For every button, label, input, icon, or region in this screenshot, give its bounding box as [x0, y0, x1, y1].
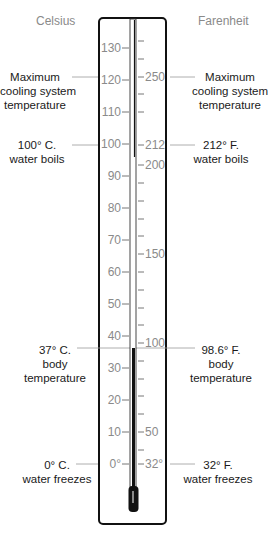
annotation-line: temperature	[0, 98, 70, 112]
celsius-body-annotation: 37° C. body temperature	[22, 343, 88, 385]
celsius-tick-label: 40	[108, 329, 121, 343]
annotation-line: 0° C.	[20, 458, 94, 472]
celsius-boils-annotation: 100° C. water boils	[4, 138, 70, 166]
fahrenheit-tick-label: 250	[145, 70, 165, 84]
annotation-line: water boils	[186, 152, 256, 166]
annotation-line: 212° F.	[186, 138, 256, 152]
annotation-line: body	[22, 357, 88, 371]
fahrenheit-tick-label: 150	[145, 247, 165, 261]
annotation-line: water boils	[4, 152, 70, 166]
celsius-tick-label: 120	[101, 73, 121, 87]
fahrenheit-tick-label: 50	[145, 425, 158, 439]
fahrenheit-tick-label: 212	[145, 138, 165, 152]
celsius-tick-label: 10	[108, 425, 121, 439]
celsius-tick-label: 130	[101, 41, 121, 55]
celsius-tick-label: 70	[108, 233, 121, 247]
fahrenheit-body-annotation: 98.6° F. body temperature	[186, 343, 256, 385]
annotation-line: temperature	[22, 371, 88, 385]
fahrenheit-tick-label: 100	[145, 336, 165, 350]
annotation-line: water freezes	[20, 472, 94, 486]
annotation-line: temperature	[192, 98, 268, 112]
annotation-line: 37° C.	[22, 343, 88, 357]
annotation-line: Maximum	[0, 70, 70, 84]
annotation-line: temperature	[186, 371, 256, 385]
celsius-tick-label: 110	[102, 105, 121, 119]
fahrenheit-tick-label: 200	[145, 158, 165, 172]
annotation-line: 98.6° F.	[186, 343, 256, 357]
annotation-line: 100° C.	[4, 138, 70, 152]
fahrenheit-tick-label: 32°	[145, 457, 163, 471]
annotation-line: body	[186, 357, 256, 371]
celsius-freezes-annotation: 0° C. water freezes	[20, 458, 94, 486]
annotation-line: cooling system	[192, 84, 268, 98]
celsius-max-cooling-annotation: Maximum cooling system temperature	[0, 70, 70, 112]
celsius-tick-label: 20	[108, 393, 121, 407]
fahrenheit-boils-annotation: 212° F. water boils	[186, 138, 256, 166]
fahrenheit-max-cooling-annotation: Maximum cooling system temperature	[192, 70, 268, 112]
celsius-tick-label: 90	[108, 169, 121, 183]
celsius-tick-label: 100	[101, 137, 121, 151]
annotation-line: cooling system	[0, 84, 70, 98]
fahrenheit-freezes-annotation: 32° F. water freezes	[178, 458, 258, 486]
celsius-tick-label: 60	[108, 265, 121, 279]
celsius-tick-label: 80	[108, 201, 121, 215]
annotation-line: Maximum	[192, 70, 268, 84]
annotation-line: 32° F.	[178, 458, 258, 472]
celsius-tick-label: 0°	[110, 457, 121, 471]
celsius-tick-label: 50	[108, 297, 121, 311]
annotation-line: water freezes	[178, 472, 258, 486]
celsius-tick-label: 30	[108, 361, 121, 375]
